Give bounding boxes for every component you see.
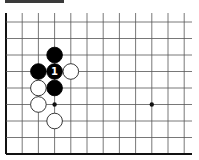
black-stone-icon	[47, 47, 63, 63]
black-stone-icon	[47, 80, 63, 96]
white-stone[interactable]	[31, 97, 47, 113]
black-stone-icon	[31, 64, 47, 80]
go-board[interactable]: 1	[0, 0, 199, 160]
white-stone[interactable]	[47, 113, 63, 129]
white-stone-icon	[47, 113, 63, 129]
move-number-label: 1	[51, 66, 58, 77]
white-stone-icon	[31, 97, 47, 113]
black-stone[interactable]: 1	[47, 64, 63, 80]
black-stone[interactable]	[47, 80, 63, 96]
white-stone[interactable]	[31, 80, 47, 96]
white-stone-icon	[63, 64, 79, 80]
black-stone[interactable]	[31, 64, 47, 80]
white-stone[interactable]	[63, 64, 79, 80]
white-stone-icon	[31, 80, 47, 96]
star-point-icon	[150, 102, 154, 106]
black-stone[interactable]	[47, 47, 63, 63]
star-point-icon	[52, 102, 56, 106]
